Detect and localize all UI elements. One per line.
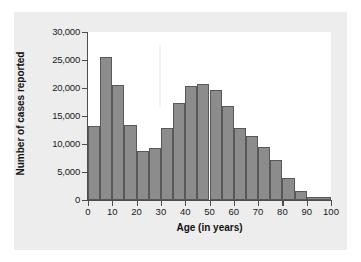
histogram-bar — [282, 178, 294, 200]
y-axis-tick-label: 30,000 — [20, 26, 80, 37]
bars-layer — [88, 32, 331, 200]
histogram-bar — [222, 106, 234, 200]
histogram-bar — [88, 126, 100, 200]
histogram-bar — [234, 128, 246, 200]
histogram-figure: 05,00010,00015,00020,00025,00030,000 010… — [0, 0, 361, 262]
histogram-bar — [210, 90, 222, 200]
histogram-bar — [112, 85, 124, 200]
y-axis-tick-label: 5,000 — [20, 166, 80, 177]
histogram-bar — [124, 125, 136, 200]
histogram-bar — [295, 191, 307, 200]
y-axis-tick-label: 10,000 — [20, 138, 80, 149]
histogram-bar — [100, 57, 112, 200]
y-axis-tick — [82, 88, 87, 89]
histogram-bar — [185, 86, 197, 200]
histogram-bar — [173, 103, 185, 200]
y-axis-tick — [82, 60, 87, 61]
y-axis-tick-label: 25,000 — [20, 54, 80, 65]
y-axis-tick — [82, 172, 87, 173]
histogram-bar — [197, 84, 209, 200]
y-axis-line — [87, 32, 88, 201]
y-axis-tick — [82, 116, 87, 117]
x-axis-tick-label: 100 — [314, 206, 348, 217]
x-axis-title: Age (in years) — [88, 222, 331, 233]
y-axis-tick — [82, 32, 87, 33]
y-axis-tick-label: 0 — [20, 194, 80, 205]
y-axis-tick — [82, 200, 87, 201]
y-axis-tick-label: 15,000 — [20, 110, 80, 121]
histogram-bar — [137, 151, 149, 200]
histogram-bar — [246, 136, 258, 200]
histogram-bar — [161, 128, 173, 200]
y-axis-tick — [82, 144, 87, 145]
y-axis-title: Number of cases reported — [15, 34, 26, 194]
histogram-bar — [270, 160, 282, 200]
y-axis-tick-label: 20,000 — [20, 82, 80, 93]
histogram-bar — [149, 148, 161, 200]
histogram-bar — [258, 147, 270, 200]
